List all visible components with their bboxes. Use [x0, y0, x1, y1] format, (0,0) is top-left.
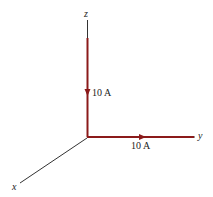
- current-label-y: 10 A: [131, 141, 150, 151]
- z-axis-label: z: [84, 9, 88, 19]
- x-axis: [20, 138, 87, 183]
- axes-and-wires: [0, 0, 213, 197]
- current-arrow-down-icon: [85, 89, 91, 96]
- current-label-z: 10 A: [92, 88, 111, 98]
- x-axis-label: x: [12, 182, 16, 192]
- y-axis-label: y: [198, 131, 202, 141]
- diagram-canvas: z y x 10 A 10 A: [0, 0, 213, 197]
